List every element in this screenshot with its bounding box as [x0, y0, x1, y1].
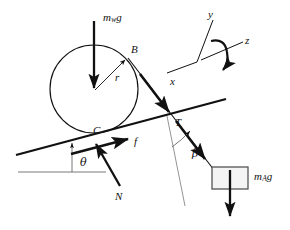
label-cable-angle: β: [192, 148, 199, 159]
label-axis-x: x: [170, 76, 175, 87]
cable-tension-arrow-upper: [140, 74, 169, 112]
radius-arrow: [95, 60, 125, 90]
axis-x-line: [167, 62, 197, 73]
z-rotation-arrow: [211, 40, 228, 70]
label-block-weight: mAg: [254, 171, 272, 183]
axis-z-line: [201, 42, 243, 60]
label-axis-z: z: [245, 35, 249, 46]
normal-arrow: [96, 144, 120, 186]
label-incline-angle: θ: [80, 157, 87, 168]
label-friction: f: [134, 136, 137, 147]
label-normal: N: [115, 191, 123, 202]
label-wheel-weight-tail: g: [116, 11, 122, 23]
label-point-b: B: [131, 44, 138, 55]
label-tension: T: [175, 117, 181, 128]
label-wheel-weight-base: m: [103, 11, 111, 23]
label-wheel-weight: mwg: [103, 12, 122, 24]
label-radius: r: [115, 72, 119, 83]
label-block-weight-base: m: [254, 170, 262, 182]
beta-arc: [172, 131, 190, 147]
label-block-weight-tail: g: [267, 170, 273, 182]
label-axis-y: y: [208, 9, 213, 20]
label-point-c: C: [93, 125, 101, 136]
physics-diagram: mwg r B C f N T θ β x y z mAg: [0, 0, 290, 230]
